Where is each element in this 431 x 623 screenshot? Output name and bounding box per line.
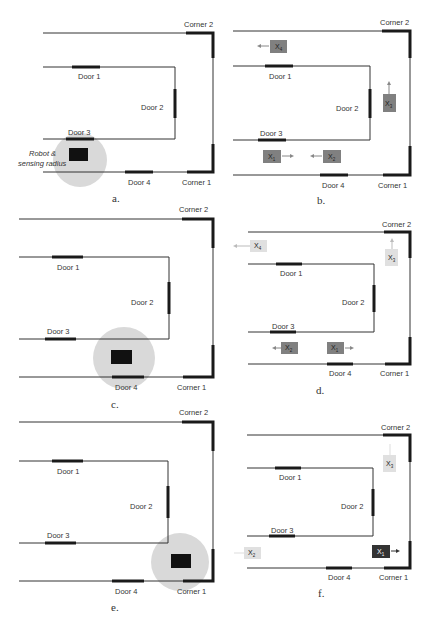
particle-x3: X3 [383,444,396,472]
door-4-label: Door 4 [329,369,352,378]
particle-x1: X1 [327,342,354,354]
corner-1-label: Corner 1 [177,587,206,596]
door-4-label: Door 4 [115,383,138,392]
robot [111,350,132,364]
panel-b: X4 X3 X1 X2 Door 1 Door 2 Door 3 Door 4 … [233,18,410,206]
corner-1-label: Corner 1 [182,178,211,187]
corner-1-label: Corner 1 [379,573,408,582]
door-2-label: Door 2 [342,298,365,307]
panel-caption-c: c. [111,398,119,410]
particle-x3: X3 [383,81,396,112]
panel-caption-b: b. [317,194,326,206]
door-3-label: Door 3 [260,129,283,138]
door-4-label: Door 4 [128,178,151,187]
door-2-label: Door 2 [341,502,364,511]
particle-x4: X4 [233,240,267,252]
panel-c: Door 1 Door 2 Door 3 Door 4 Corner 1 Cor… [19,205,213,410]
door-3-label: Door 3 [272,322,295,331]
door-2-label: Door 2 [141,103,164,112]
door-3-label: Door 3 [47,531,70,540]
corner-1-label: Corner 1 [378,181,407,190]
door-1-label: Door 1 [57,467,80,476]
robot-label-line2: sensing radius [18,159,67,168]
corner-2-label: Corner 2 [382,220,411,229]
particle-x3: X3 [385,238,398,266]
door-4-label: Door 4 [322,181,345,190]
door-2-label: Door 2 [130,502,153,511]
panel-f: X3 X2 X1 Door 1 Door 2 Door 3 Door 4 Cor… [234,423,410,599]
particle-x1: X1 [372,545,400,558]
panel-caption-d: d. [316,384,325,396]
door-4-label: Door 4 [328,573,351,582]
corner-1-label: Corner 1 [380,369,409,378]
panel-caption-e: e. [111,601,119,613]
corner-1-label: Corner 1 [177,383,206,392]
corner-2-label: Corner 2 [380,18,409,27]
door-3-label: Door 3 [47,327,70,336]
particle-x4: X4 [257,40,287,53]
corner-2-label: Corner 2 [184,20,213,29]
panel-d: X4 X3 X2 X1 Door 1 Door 2 Door 3 Door 4 … [233,220,411,396]
door-1-label: Door 1 [280,269,303,278]
robot [69,148,88,161]
door-1-label: Door 1 [57,263,80,272]
localization-figure: Door 1 Door 2 Door 3 Door 4 Corner 1 Cor… [0,0,431,623]
door-1-label: Door 1 [279,473,302,482]
corner-2-label: Corner 2 [179,408,208,417]
particle-x2: X2 [234,547,261,559]
door-3-label: Door 3 [271,526,294,535]
particle-x2: X2 [310,150,341,163]
particle-x2: X2 [272,342,298,354]
door-4-label: Door 4 [115,587,138,596]
panel-e: Door 1 Door 2 Door 3 Door 4 Corner 1 Cor… [19,408,213,613]
panel-a: Door 1 Door 2 Door 3 Door 4 Corner 1 Cor… [18,20,213,204]
panel-caption-f: f. [318,587,325,599]
door-1-label: Door 1 [78,72,101,81]
robot-label-line1: Robot & [29,149,56,158]
door-3-label: Door 3 [68,128,91,137]
panel-caption-a: a. [112,192,120,204]
door-1-label: Door 1 [269,72,292,81]
particle-x1: X1 [263,150,294,163]
corner-2-label: Corner 2 [381,423,410,432]
door-2-label: Door 2 [336,104,359,113]
door-2-label: Door 2 [131,298,154,307]
corner-2-label: Corner 2 [179,205,208,214]
robot [171,554,191,568]
